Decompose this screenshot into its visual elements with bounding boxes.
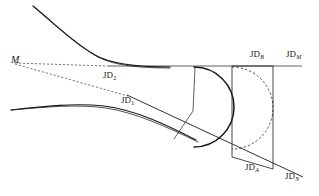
solid-circular-arc [194, 67, 234, 147]
dashed-circular-arc [232, 67, 273, 149]
label-point-jdb-subscript: B [260, 54, 264, 60]
m-to-jd1-dashed-line [15, 64, 128, 96]
label-point-jdb-base: JD [250, 49, 260, 59]
label-point-jd2-base: JD [103, 70, 113, 80]
label-point-jd1: JD1 [121, 96, 134, 105]
label-point-jda-subscript: A [255, 167, 259, 173]
label-point-jda: JDA [245, 163, 259, 172]
upper-spiral-curve-inner [33, 6, 170, 68]
upper-spiral-curve [33, 6, 170, 67]
label-point-jdm-base: JD [286, 49, 296, 59]
lower-spiral-curve-inner [11, 106, 198, 142]
geometry-canvas [0, 0, 319, 196]
label-point-jd1-subscript: 1 [131, 100, 134, 106]
label-point-jd2: JD2 [103, 71, 116, 80]
label-point-jd1-base: JD [121, 95, 131, 105]
label-point-jdb: JDB [250, 50, 264, 59]
inner-chord-construction-line [174, 67, 195, 139]
label-point-jdn-base: JD [285, 171, 295, 181]
label-point-jdn: JDN [285, 172, 299, 181]
alignment-geometry-figure: M JD1 JD2 JDA JDB JDM JDN [0, 0, 319, 196]
lower-spiral-curve [11, 105, 196, 140]
label-point-jdn-subscript: N [295, 176, 299, 182]
label-point-jd2-subscript: 2 [113, 75, 116, 81]
label-point-jdm-subscript: M [296, 54, 301, 60]
label-point-m: M [11, 55, 19, 65]
lower-tangent-line [127, 95, 303, 177]
label-point-jdm: JDM [286, 50, 301, 59]
label-point-jda-base: JD [245, 162, 255, 172]
label-point-m-text: M [11, 54, 19, 65]
m-to-jd2-dashed-line [15, 63, 107, 66]
